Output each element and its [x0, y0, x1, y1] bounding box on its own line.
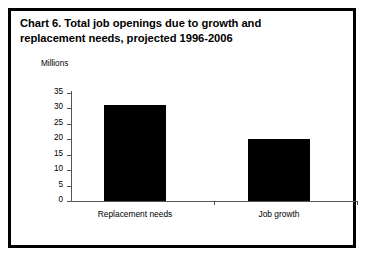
y-tick-mark-0: [67, 201, 72, 202]
y-tick-25: 25: [11, 124, 81, 125]
y-tick-label-20: 20: [11, 133, 63, 143]
y-tick-30: 30: [11, 108, 81, 109]
y-tick-mark-20: [67, 139, 72, 140]
y-tick-mark-30: [67, 108, 72, 109]
y-tick-label-5: 5: [11, 180, 63, 190]
y-tick-label-0: 0: [11, 195, 63, 205]
y-tick-5: 5: [11, 186, 81, 187]
y-tick-label-30: 30: [11, 102, 63, 112]
x-tick-mark-mid: [214, 201, 215, 205]
plot-area: 0 5 10 15 20 25 30 35: [11, 11, 359, 251]
bar-job-growth: [248, 139, 310, 201]
chart-figure: Chart 6. Total job openings due to growt…: [8, 8, 356, 248]
x-axis-label-job-growth: Job growth: [233, 209, 325, 219]
y-tick-label-15: 15: [11, 149, 63, 159]
y-tick-mark-5: [67, 186, 72, 187]
y-tick-mark-25: [67, 124, 72, 125]
y-tick-10: 10: [11, 170, 81, 171]
y-tick-15: 15: [11, 155, 81, 156]
y-tick-mark-10: [67, 170, 72, 171]
y-tick-label-25: 25: [11, 118, 63, 128]
x-tick-mark-end: [357, 201, 358, 205]
y-tick-mark-15: [67, 155, 72, 156]
y-tick-0: 0: [11, 201, 81, 202]
bar-replacement-needs: [104, 105, 166, 201]
y-tick-35: 35: [11, 93, 81, 94]
y-tick-label-35: 35: [11, 87, 63, 97]
x-axis-label-replacement-needs: Replacement needs: [82, 209, 188, 219]
y-tick-20: 20: [11, 139, 81, 140]
y-tick-label-10: 10: [11, 164, 63, 174]
y-tick-mark-35: [67, 93, 72, 94]
